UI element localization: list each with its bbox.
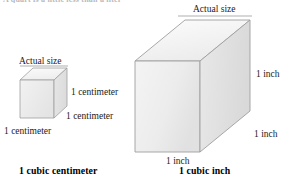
small-cube-front-face <box>20 80 54 118</box>
large-cube-front-face <box>135 61 200 152</box>
small-cube-centimeter <box>20 68 67 118</box>
large-cube-actual-size-label: Actual size <box>193 4 235 14</box>
small-cube-width-label: 1 centimeter <box>4 126 51 136</box>
large-cube-caption: 1 cubic inch <box>179 166 230 176</box>
cube-drawing-layer <box>0 0 298 189</box>
small-cube-depth-label: 1 centimeter <box>71 87 118 97</box>
small-cube-height-label: 1 centimeter <box>66 111 113 121</box>
small-cube-actual-size-label: Actual size <box>19 56 61 66</box>
large-cube-height-label: 1 inch <box>254 129 277 139</box>
small-cube-caption: 1 cubic centimeter <box>19 166 98 176</box>
large-cube-inch <box>135 20 250 152</box>
large-cube-depth-label: 1 inch <box>256 69 279 79</box>
cubic-units-figure: A quart is a little less than a liter <box>0 0 298 189</box>
